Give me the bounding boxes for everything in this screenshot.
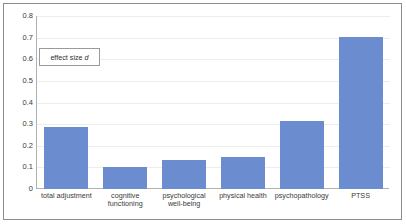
y-axis-tick-label: 0.2 xyxy=(23,142,33,150)
y-axis-tick-label: 0.5 xyxy=(23,77,33,85)
bar-series xyxy=(37,16,390,189)
bar xyxy=(221,157,265,189)
y-axis-tick-label: 0.6 xyxy=(23,56,33,64)
x-axis-tick-label: total adjustment xyxy=(37,192,96,200)
bar xyxy=(339,37,383,189)
x-axis-tick-label: psychopathology xyxy=(272,192,331,200)
x-axis-tick-label: cognitive functioning xyxy=(96,192,155,209)
y-axis-tick-label: 0.8 xyxy=(23,12,33,20)
bar xyxy=(44,127,88,189)
plot-area: 00.10.20.30.40.50.60.70.8 total adjustme… xyxy=(36,16,389,189)
x-axis-tick-label: physical health xyxy=(214,192,273,200)
x-axis-tick-label: psychological well-being xyxy=(155,192,214,209)
figure-canvas: 00.10.20.30.40.50.60.70.8 total adjustme… xyxy=(0,0,406,224)
figure-frame: 00.10.20.30.40.50.60.70.8 total adjustme… xyxy=(3,3,402,220)
y-axis-tick-label: 0.4 xyxy=(23,99,33,107)
bar xyxy=(280,121,324,189)
legend-symbol: d xyxy=(85,53,89,62)
legend-label: effect size d xyxy=(50,53,88,62)
bar xyxy=(103,167,147,189)
y-axis-tick-label: 0.3 xyxy=(23,120,33,128)
y-axis-tick-label: 0 xyxy=(29,185,33,193)
y-axis-tick-label: 0.1 xyxy=(23,164,33,172)
y-axis-tick-label: 0.7 xyxy=(23,34,33,42)
x-axis-tick-label: PTSS xyxy=(331,192,390,200)
bar xyxy=(162,160,206,189)
legend-box: effect size d xyxy=(39,48,100,66)
